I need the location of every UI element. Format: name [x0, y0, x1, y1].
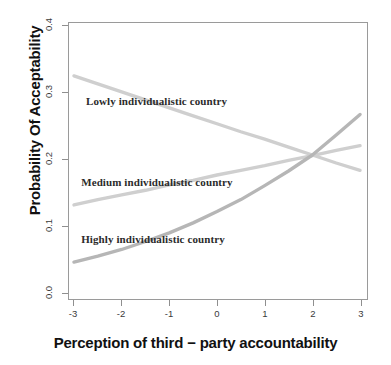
series-annotation-label: Medium individualistic country	[81, 176, 233, 188]
x-tick-mark	[265, 300, 266, 306]
chart-figure: Probability Of Acceptability 0.00.10.20.…	[0, 0, 391, 365]
x-tick-label: -2	[110, 308, 132, 319]
x-tick-label: 3	[350, 308, 372, 319]
y-tick-label: 0.4	[43, 13, 54, 37]
x-tick-mark	[169, 300, 170, 306]
x-tick-label: -1	[158, 308, 180, 319]
x-tick-mark	[121, 300, 122, 306]
y-tick-label: 0.1	[43, 214, 54, 238]
plot-area: Lowly individualistic countryMedium indi…	[68, 22, 368, 300]
x-tick-mark	[361, 300, 362, 306]
y-axis-title: Probability Of Acceptability	[26, 0, 43, 251]
x-tick-label: -3	[62, 308, 84, 319]
x-tick-mark	[313, 300, 314, 306]
series-annotation-label: Lowly individualistic country	[86, 95, 227, 107]
series-annotation-label: Highly individualistic country	[81, 233, 225, 245]
series-lines	[69, 23, 367, 299]
x-tick-label: 1	[254, 308, 276, 319]
y-tick-label: 0.2	[43, 147, 54, 171]
x-tick-label: 2	[302, 308, 324, 319]
x-axis-title: Perception of third − party accountabili…	[0, 334, 391, 351]
x-tick-mark	[217, 300, 218, 306]
x-tick-label: 0	[206, 308, 228, 319]
y-tick-label: 0.0	[43, 281, 54, 305]
y-tick-label: 0.3	[43, 80, 54, 104]
x-tick-mark	[73, 300, 74, 306]
